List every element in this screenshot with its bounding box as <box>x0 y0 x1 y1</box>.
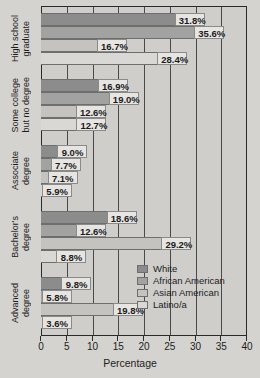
x-tick-label: 5 <box>64 341 70 352</box>
y-category-label: Bachelor'sdegree <box>0 204 40 270</box>
legend-item: Latino/a <box>137 299 225 310</box>
legend-item: Asian American <box>137 287 225 298</box>
y-category-label-line: degree <box>21 223 31 251</box>
legend-item: White <box>137 263 225 274</box>
bar-value-label: 5.8% <box>42 290 72 303</box>
chart-figure: High schoolgraduateSome collegebut no de… <box>0 0 260 378</box>
bar-value-label: 19.0% <box>109 92 139 105</box>
legend-label: White <box>153 263 177 274</box>
bar-value-label: 16.7% <box>97 39 127 52</box>
bar-value-label: 9.8% <box>61 277 91 290</box>
y-category-label-line: High school <box>10 15 20 62</box>
y-category-label: High schoolgraduate <box>0 6 40 72</box>
y-category-label-line: Bachelor's <box>10 216 20 258</box>
x-tick-label: 35 <box>216 341 227 352</box>
legend-label: African American <box>153 275 225 286</box>
x-tick-label: 20 <box>138 341 149 352</box>
x-tick-label: 25 <box>164 341 175 352</box>
y-category-label-line: Associate <box>10 151 20 190</box>
bar-value-label: 7.1% <box>48 171 78 184</box>
legend-label: Latino/a <box>153 299 187 310</box>
bar-value-label: 5.9% <box>42 184 72 197</box>
y-category-label-line: Advanced <box>10 283 20 323</box>
bar-value-label: 28.4% <box>157 52 187 65</box>
y-category-label-line: Some college <box>10 78 20 133</box>
y-category-label: Associatedegree <box>0 138 40 204</box>
bar-value-label: 18.6% <box>107 211 137 224</box>
x-tick-label: 40 <box>241 341 252 352</box>
y-category-label: Advanceddegree <box>0 270 40 336</box>
legend-swatch <box>137 301 148 309</box>
bar-value-label: 16.9% <box>98 79 128 92</box>
x-tick-label: 0 <box>38 341 44 352</box>
bar-value-label: 9.0% <box>57 145 87 158</box>
bar-value-label: 12.7% <box>76 118 106 131</box>
y-category-label-line: degree <box>21 157 31 185</box>
y-category-label-line: degree <box>21 289 31 317</box>
bar-value-label: 29.2% <box>161 237 191 250</box>
x-tick-label: 30 <box>190 341 201 352</box>
bar-value-label: 8.8% <box>56 250 86 263</box>
bar-value-label: 12.6% <box>76 224 106 237</box>
x-tick-label: 10 <box>87 341 98 352</box>
chart-legend: WhiteAfrican AmericanAsian AmericanLatin… <box>137 263 225 311</box>
y-category-label-line: graduate <box>21 21 31 57</box>
y-category-label-line: but no degree <box>21 77 31 133</box>
bar-value-label: 7.7% <box>51 158 81 171</box>
legend-swatch <box>137 277 148 285</box>
bar-value-label: 12.6% <box>76 105 106 118</box>
legend-label: Asian American <box>153 287 219 298</box>
x-axis-title: Percentage <box>0 357 260 369</box>
legend-item: African American <box>137 275 225 286</box>
bar-value-label: 31.8% <box>175 13 205 26</box>
legend-swatch <box>137 289 148 297</box>
y-category-label: Some collegebut no degree <box>0 72 40 138</box>
x-tick-label: 15 <box>113 341 124 352</box>
legend-swatch <box>137 265 148 273</box>
bar-value-label: 3.6% <box>42 316 72 329</box>
bar-value-label: 35.6% <box>194 26 224 39</box>
